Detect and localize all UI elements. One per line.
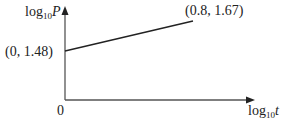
data-line (65, 21, 193, 51)
x-axis-label-var: t (275, 103, 279, 118)
x-axis-label-prefix: log (248, 103, 266, 118)
x-axis-label-sub: 10 (266, 110, 275, 120)
y-axis-arrow-icon (62, 6, 69, 15)
x-axis-label: log10t (248, 104, 279, 120)
y-axis-label-var: P (52, 4, 61, 19)
point-end-label: (0.8, 1.67) (185, 4, 243, 18)
y-axis-label-prefix: log (25, 4, 43, 19)
y-axis-label: log10P (25, 5, 60, 21)
y-axis-label-sub: 10 (43, 11, 52, 21)
point-start-label: (0, 1.48) (5, 45, 53, 59)
origin-label: 0 (57, 104, 64, 118)
